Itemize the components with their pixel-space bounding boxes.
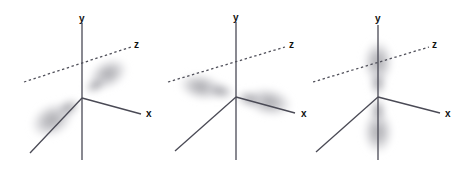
axis-label-x: x xyxy=(146,108,152,119)
axis-label-z: z xyxy=(289,39,294,50)
orbital-diagram-px: y x z xyxy=(156,0,313,173)
orbital-panel-px: y x z xyxy=(156,0,313,173)
axis-label-y: y xyxy=(79,13,85,24)
axis-label-z: z xyxy=(432,39,437,50)
axis-z-line xyxy=(168,47,285,82)
orbital-figure: y x z xyxy=(0,0,470,173)
axis-label-x: x xyxy=(445,108,451,119)
orbital-panel-py: y x z xyxy=(313,0,470,173)
orbital-diagram-pz: y x z xyxy=(0,0,157,173)
axis-x-line xyxy=(82,98,141,114)
orbital-panel-pz: y x z xyxy=(0,0,157,173)
axis-z-negative-line xyxy=(175,97,236,151)
axis-label-x: x xyxy=(301,108,307,119)
axis-x-line xyxy=(378,97,440,113)
axis-label-z: z xyxy=(134,39,139,50)
axis-label-y: y xyxy=(375,13,381,24)
axis-label-y: y xyxy=(233,12,239,23)
orbital-diagram-py: y x z xyxy=(313,0,470,173)
